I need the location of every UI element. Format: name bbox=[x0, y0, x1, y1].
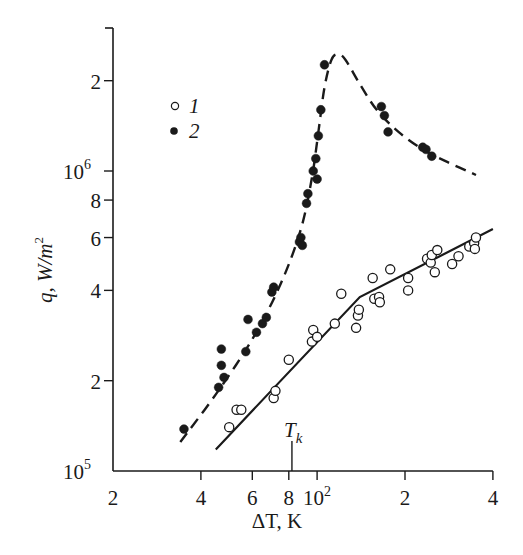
y-tick-label: 2 bbox=[91, 70, 102, 94]
series-2-point bbox=[384, 127, 393, 136]
legend-open-circle-icon bbox=[171, 102, 178, 109]
series-2-point bbox=[377, 102, 386, 111]
x-tick-label: 102 bbox=[303, 484, 331, 510]
x-tick-label: 6 bbox=[247, 486, 258, 510]
series-2-point bbox=[244, 315, 253, 324]
series-2-point bbox=[296, 233, 305, 242]
series-1-point bbox=[368, 273, 377, 282]
y-axis-label-text: q, W/m bbox=[33, 244, 57, 304]
chart-container: 24681022410524681062 12 ΔT, K q, W/m2 Tk bbox=[0, 0, 523, 555]
series-2-point bbox=[214, 383, 223, 392]
series-1-point bbox=[404, 286, 413, 295]
tk-annotation-sub: k bbox=[296, 430, 303, 446]
data-points bbox=[180, 60, 481, 433]
x-tick-label: 4 bbox=[196, 486, 207, 510]
series-2-point bbox=[262, 313, 271, 322]
legend-label: 2 bbox=[189, 119, 200, 143]
plot-svg: 24681022410524681062 12 ΔT, K q, W/m2 Tk bbox=[0, 0, 523, 555]
y-tick-label: 6 bbox=[91, 227, 102, 251]
series-1-point bbox=[430, 268, 439, 277]
series-2-point bbox=[309, 167, 318, 176]
axis-labels: ΔT, K q, W/m2 Tk bbox=[31, 237, 303, 533]
series-1-point bbox=[351, 323, 360, 332]
y-tick-label: 105 bbox=[63, 457, 91, 484]
series-2-point bbox=[303, 189, 312, 198]
series-2-point bbox=[380, 111, 389, 120]
x-tick-label: 2 bbox=[400, 486, 411, 510]
y-tick-label: 4 bbox=[91, 279, 102, 303]
x-tick-label: 2 bbox=[108, 486, 119, 510]
series-2-point bbox=[316, 105, 325, 114]
series-1-point bbox=[271, 386, 280, 395]
series-2-point bbox=[217, 345, 226, 354]
y-tick-label: 8 bbox=[91, 189, 102, 213]
legend: 12 bbox=[170, 94, 200, 143]
series-1-point bbox=[471, 233, 480, 242]
y-axis-label: q, W/m2 bbox=[31, 237, 57, 303]
series-1-point bbox=[225, 423, 234, 432]
series-1-point bbox=[433, 245, 442, 254]
x-axis-label: ΔT, K bbox=[252, 509, 302, 533]
tk-annotation: Tk bbox=[284, 418, 303, 446]
series-2-point bbox=[252, 328, 261, 337]
series-2-point bbox=[311, 154, 320, 163]
series-1-point bbox=[470, 244, 479, 253]
series-2-point bbox=[220, 373, 229, 382]
series-1-point bbox=[375, 298, 384, 307]
series-2-point bbox=[314, 131, 323, 140]
series-1-point bbox=[337, 289, 346, 298]
y-axis-label-group: q, W/m2 bbox=[31, 237, 57, 303]
series-1-point bbox=[354, 305, 363, 314]
series-2-point bbox=[298, 241, 307, 250]
y-tick-label: 2 bbox=[91, 370, 102, 394]
series-2-point bbox=[320, 60, 329, 69]
series-1-point bbox=[312, 332, 321, 341]
y-tick-label: 106 bbox=[63, 157, 91, 184]
series-1-point bbox=[330, 319, 339, 328]
series-1-point bbox=[404, 273, 413, 282]
series-1-point bbox=[386, 265, 395, 274]
series-2-point bbox=[427, 152, 436, 161]
series-1-point bbox=[454, 252, 463, 261]
y-axis-label-sup: 2 bbox=[31, 237, 46, 244]
legend-label: 1 bbox=[189, 94, 200, 118]
series-1-point bbox=[284, 355, 293, 364]
series-2-point bbox=[217, 361, 226, 370]
series-2-point bbox=[180, 425, 189, 434]
fit-curves bbox=[180, 54, 493, 449]
series-1-point bbox=[448, 259, 457, 268]
series-2-point bbox=[241, 347, 250, 356]
series-2-point bbox=[313, 175, 322, 184]
series-1-point bbox=[237, 405, 246, 414]
x-tick-label: 8 bbox=[284, 486, 295, 510]
series-2-point bbox=[269, 283, 278, 292]
x-tick-label: 4 bbox=[488, 486, 499, 510]
series-2-point bbox=[302, 199, 311, 208]
legend-filled-circle-icon bbox=[170, 127, 178, 135]
series-2-fit-curve bbox=[180, 54, 476, 442]
